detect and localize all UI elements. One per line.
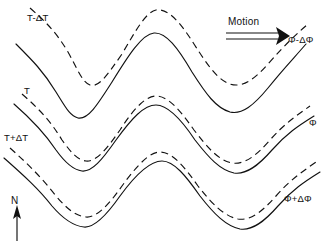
wave-contours [0, 0, 335, 248]
isotherm-warm-curve [10, 148, 316, 219]
motion-label: Motion [228, 17, 259, 27]
height-high-label: Φ+ΔΦ [284, 194, 312, 204]
temperature-warm-label: T+ΔT [4, 133, 28, 143]
motion-arrow [226, 27, 290, 45]
temperature-mid-label: T [24, 86, 30, 96]
height-mid-label: Φ [309, 118, 317, 128]
north-label: N [11, 196, 18, 206]
temperature-cold-label: T-ΔT [27, 13, 48, 23]
north-arrow [13, 205, 21, 241]
thermal-advection-diagram: T-ΔT T T+ΔT Φ-ΔΦ Φ Φ+ΔΦ Motion N [0, 0, 335, 248]
height-contour-mid-curve [14, 104, 314, 173]
height-contour-high-curve [4, 158, 320, 229]
isotherm-cold-curve [30, 8, 308, 85]
height-low-label: Φ-ΔΦ [288, 35, 313, 45]
